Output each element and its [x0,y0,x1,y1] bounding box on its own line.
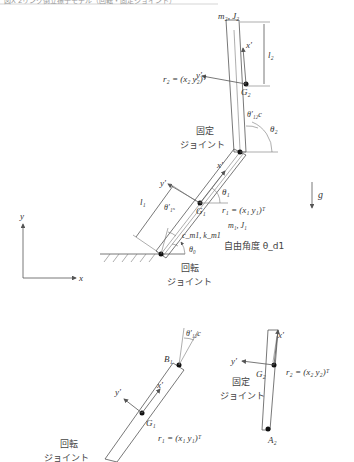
lower-diagram: B₁ G₁ r₁ = (x₁ y₁)ᵀ y′ x′ θ′₁₂c y′ x′ G₂… [44,328,330,462]
ground [100,254,185,262]
theta1s-label: θ′₁ₛ [164,203,175,212]
b1-label: B₁ [164,354,173,364]
m1-j1-label: m₁, J₁ [228,221,247,230]
a2-label: A₂ [267,435,277,445]
lower-link-1 [105,363,184,462]
lower-theta12c-arc [184,338,194,340]
lower-fixed-joint-label-2: ジョイント [220,391,265,401]
theta2-arc [252,122,272,152]
theta1-label: θ₁ [222,187,230,197]
gravity-label: g [318,189,323,200]
lower-r2-label: r₂ = (x₂ y₂)ᵀ [286,367,330,377]
lower-link1-y-axis [124,399,142,413]
lower-g2-label: G₂ [256,369,266,379]
link2-x-label: x′ [245,40,253,50]
link-2 [226,20,246,152]
link2-x-axis [243,48,246,84]
link1-y-label: y′ [159,178,167,188]
theta12c-label: θ′₁₂c [247,110,262,119]
link2-y-axis [202,76,246,84]
lower-link2-y-axis [242,361,274,365]
r2-label: r₂ = (x₂ y₂)ᵀ [163,74,207,84]
caption-text: 図X 2リンク倒立振子モデル（回転・固定ジョイント） [4,0,176,5]
theta12c-arc [246,126,258,128]
lower-link1-x-axis [142,389,160,413]
fixed-joint-label-2: ジョイント [180,140,225,150]
theta0-label: θ₀ [189,245,196,254]
lower-rotary-joint-label-1: 回転 [60,439,78,449]
lower-r1-label: r₁ = (x₁ y₁)ᵀ [158,433,202,443]
r1-label: r₁ = (x₁ y₁)ᵀ [222,205,266,215]
lower-link1-y-label: y′ [114,387,122,397]
free-angle-label: 自由角度 θ_d1 [224,240,284,251]
g1-label: G₁ [196,206,206,216]
spring-damper-label: c_m1, k_m1 [182,231,221,240]
rotary-joint-label-1: 回転 [181,263,199,273]
theta0-arc [181,242,185,254]
a2-dot [266,427,271,432]
lower-link2-y-label: y′ [230,356,238,366]
world-x-label: x [78,273,83,283]
lower-link2-x-label: x′ [277,330,285,340]
link1-x-label: x′ [216,160,224,170]
g2-label: G₂ [241,87,251,97]
lower-rotary-joint-label-2: ジョイント [44,453,89,462]
world-y-label: y [19,211,24,221]
m2-j2-label: m₂, J₂ [218,11,239,21]
lower-fixed-joint-label-1: 固定 [232,376,250,387]
lower-theta12c-label: θ′₁₂c [186,329,201,338]
two-link-pendulum-diagram: 図X 2リンク倒立振子モデル（回転・固定ジョイント） [0,0,354,462]
lower-link1-x-label: x′ [156,380,164,390]
figure-caption: 図X 2リンク倒立振子モデル（回転・固定ジョイント） [0,0,218,5]
l1-label: l₁ [140,197,146,207]
lower-g1-label: G₁ [146,418,156,428]
fixed-joint-label-1: 固定 [196,125,214,136]
theta2-label: θ₂ [270,124,278,134]
l2-label: l₂ [268,50,274,60]
upper-diagram: y′ x′ G₂ r₂ = (x₂ y₂)ᵀ l₂ m₂, J₂ θ₂ θ′₁₂… [19,11,323,287]
rotary-joint-label-2: ジョイント [167,277,212,287]
